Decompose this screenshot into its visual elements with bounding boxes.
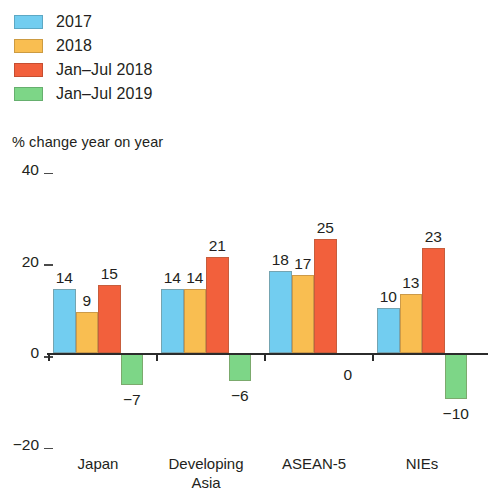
bar-value-label: 23: [412, 229, 455, 245]
y-axis-tick-mark: [44, 173, 53, 175]
y-axis-tick: 40: [1, 162, 53, 178]
legend-swatch-jan-jul-2018: [14, 63, 43, 77]
y-axis-tick-label: 0: [30, 344, 39, 362]
zero-baseline: [47, 353, 488, 355]
bar-value-label: −7: [111, 392, 154, 408]
legend-item-2018: 2018: [14, 34, 234, 58]
x-axis-group-tick: [156, 355, 158, 361]
bar: [161, 289, 184, 353]
bar: [292, 275, 315, 353]
x-axis-group-tick: [264, 355, 266, 361]
y-axis-tick: 0: [1, 345, 53, 361]
y-axis-tick-label: −20: [13, 436, 39, 454]
bar-value-label: 9: [66, 293, 109, 309]
bar-value-label: 14: [174, 270, 217, 286]
bar: [121, 353, 144, 385]
bar-value-label: 17: [282, 256, 325, 272]
bar-chart-figure: 2017 2018 Jan–Jul 2018 Jan–Jul 2019 % ch…: [0, 0, 494, 496]
bar-value-label: 10: [367, 289, 410, 305]
legend-label-jan-jul-2018: Jan–Jul 2018: [56, 61, 152, 79]
bar: [377, 308, 400, 354]
bar-value-label: 0: [327, 367, 370, 383]
y-axis-title: % change year on year: [12, 134, 163, 150]
y-axis-tick-label: 20: [22, 253, 39, 271]
legend-item-2017: 2017: [14, 10, 234, 34]
y-axis-tick-mark: [44, 448, 53, 450]
chart-legend: 2017 2018 Jan–Jul 2018 Jan–Jul 2019: [14, 10, 234, 106]
x-axis-group-tick: [372, 355, 374, 361]
y-axis-tick-mark: [44, 264, 53, 266]
legend-swatch-jan-jul-2019: [14, 87, 43, 101]
bar-value-label: 14: [43, 270, 86, 286]
bar: [76, 312, 99, 353]
legend-label-jan-jul-2019: Jan–Jul 2019: [56, 85, 152, 103]
legend-label-2017: 2017: [56, 13, 92, 31]
bar-value-label: −10: [435, 406, 478, 422]
legend-item-jan-jul-2018: Jan–Jul 2018: [14, 58, 234, 82]
legend-swatch-2018: [14, 39, 43, 53]
bar: [422, 248, 445, 353]
plot-area: 40200−20 14915−7141421−61817250101323−10…: [53, 170, 490, 445]
bar-value-label: 15: [88, 266, 131, 282]
y-axis-tick: 20: [1, 254, 53, 270]
x-axis-group-tick: [48, 355, 50, 361]
y-axis-tick-label: 40: [22, 161, 39, 179]
bar-value-label: 25: [304, 220, 347, 236]
x-axis-category-label: NIEs: [355, 455, 489, 474]
bar-value-label: −6: [219, 388, 262, 404]
y-axis-tick: −20: [1, 437, 53, 453]
bar-value-label: 21: [196, 238, 239, 254]
legend-swatch-2017: [14, 15, 43, 29]
bar: [269, 271, 292, 354]
legend-item-jan-jul-2019: Jan–Jul 2019: [14, 82, 234, 106]
bar: [445, 353, 468, 399]
legend-label-2018: 2018: [56, 37, 92, 55]
bar-value-label: 13: [390, 275, 433, 291]
bar: [184, 289, 207, 353]
bar: [229, 353, 252, 381]
